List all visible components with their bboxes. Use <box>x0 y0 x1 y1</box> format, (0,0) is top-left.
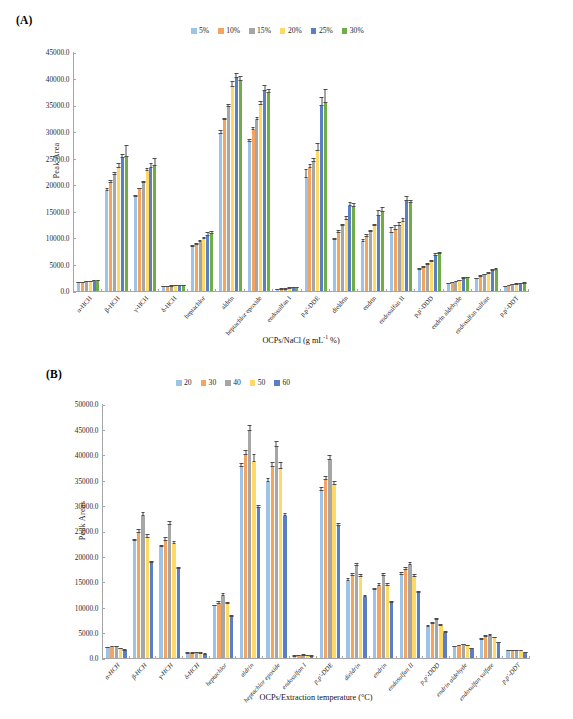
bar[interactable] <box>235 78 238 291</box>
bar[interactable] <box>191 247 194 291</box>
bar[interactable] <box>365 237 368 291</box>
bar[interactable] <box>159 547 162 658</box>
bar[interactable] <box>417 593 420 658</box>
bar[interactable] <box>271 467 274 658</box>
bar[interactable] <box>390 233 393 291</box>
bar[interactable] <box>390 603 393 658</box>
bar[interactable] <box>422 268 425 291</box>
bar[interactable] <box>488 636 491 658</box>
bar[interactable] <box>195 245 198 291</box>
bar[interactable] <box>263 91 266 291</box>
bar[interactable] <box>109 183 112 291</box>
bar[interactable] <box>121 158 124 291</box>
bar[interactable] <box>252 130 255 291</box>
legend-item-20pct[interactable]: 20% <box>280 27 302 35</box>
bar[interactable] <box>168 525 171 658</box>
bar[interactable] <box>134 197 137 291</box>
bar[interactable] <box>141 516 144 658</box>
bar[interactable] <box>324 103 327 291</box>
bar[interactable] <box>231 87 234 291</box>
bar[interactable] <box>219 134 222 291</box>
bar[interactable] <box>409 203 412 291</box>
bar[interactable] <box>373 590 376 658</box>
bar[interactable] <box>377 216 380 291</box>
bar[interactable] <box>361 242 364 291</box>
bar[interactable] <box>283 516 286 658</box>
bar[interactable] <box>202 239 205 291</box>
bar[interactable] <box>337 526 340 658</box>
bar[interactable] <box>255 120 258 291</box>
bar[interactable] <box>373 226 376 291</box>
bar[interactable] <box>137 533 140 658</box>
legend-item-30pct[interactable]: 30% <box>342 27 364 35</box>
bar[interactable] <box>153 166 156 291</box>
bar[interactable] <box>305 178 308 291</box>
bar[interactable] <box>332 485 335 658</box>
bar[interactable] <box>266 482 269 658</box>
bar[interactable] <box>333 240 336 291</box>
bar[interactable] <box>408 565 411 658</box>
bar[interactable] <box>439 626 442 658</box>
bar[interactable] <box>227 107 230 291</box>
bar[interactable] <box>267 93 270 291</box>
bar[interactable] <box>257 508 260 658</box>
bar[interactable] <box>430 262 433 291</box>
legend-item-10pct[interactable]: 10% <box>218 27 240 35</box>
bar[interactable] <box>348 206 351 291</box>
bar[interactable] <box>363 597 366 658</box>
bar[interactable] <box>164 541 167 658</box>
bar[interactable] <box>244 455 247 658</box>
bar[interactable] <box>113 175 116 291</box>
bar[interactable] <box>328 460 331 658</box>
bar[interactable] <box>320 491 323 658</box>
bar[interactable] <box>199 242 202 291</box>
bar[interactable] <box>418 270 421 291</box>
legend-item-15pct[interactable]: 15% <box>249 27 271 35</box>
legend-item-20[interactable]: 20 <box>176 379 192 387</box>
bar[interactable] <box>125 157 128 291</box>
bar[interactable] <box>312 162 315 291</box>
bar[interactable] <box>404 570 407 658</box>
bar[interactable] <box>239 81 242 291</box>
bar[interactable] <box>377 586 380 658</box>
bar[interactable] <box>401 222 404 291</box>
legend-item-30[interactable]: 30 <box>201 379 217 387</box>
bar[interactable] <box>435 620 438 658</box>
bar[interactable] <box>206 236 209 291</box>
bar[interactable] <box>484 637 487 658</box>
bar[interactable] <box>230 617 233 658</box>
bar[interactable] <box>226 604 229 658</box>
bar[interactable] <box>352 207 355 291</box>
bar[interactable] <box>177 569 180 658</box>
bar[interactable] <box>105 191 108 291</box>
bar[interactable] <box>275 447 278 659</box>
bar[interactable] <box>359 577 362 658</box>
bar[interactable] <box>142 183 145 291</box>
bar[interactable] <box>210 234 213 291</box>
bar[interactable] <box>259 105 262 291</box>
bar[interactable] <box>426 627 429 658</box>
bar[interactable] <box>426 265 429 291</box>
legend-item-60[interactable]: 60 <box>274 379 290 387</box>
bar[interactable] <box>320 106 323 291</box>
bar[interactable] <box>316 151 319 291</box>
bar[interactable] <box>394 230 397 291</box>
bar[interactable] <box>405 201 408 291</box>
bar[interactable] <box>133 541 136 658</box>
bar[interactable] <box>438 254 441 291</box>
bar[interactable] <box>308 168 311 291</box>
bar[interactable] <box>341 226 344 291</box>
bar[interactable] <box>434 256 437 291</box>
bar[interactable] <box>345 220 348 291</box>
bar[interactable] <box>213 606 216 658</box>
bar[interactable] <box>491 271 494 291</box>
bar[interactable] <box>431 624 434 658</box>
bar[interactable] <box>240 467 243 658</box>
bar[interactable] <box>351 576 354 658</box>
bar[interactable] <box>248 142 251 291</box>
bar[interactable] <box>217 604 220 658</box>
bar[interactable] <box>355 566 358 658</box>
bar[interactable] <box>117 168 120 291</box>
bar[interactable] <box>149 168 152 291</box>
bar[interactable] <box>382 576 385 658</box>
